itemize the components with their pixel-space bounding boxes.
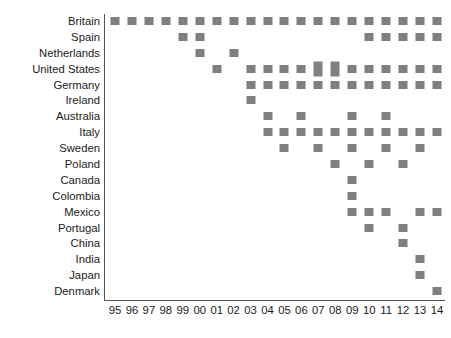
marker: [280, 65, 289, 73]
y-tick-label-portugal: Portugal: [0, 222, 100, 234]
marker: [433, 33, 442, 41]
marker: [416, 144, 425, 152]
marker: [365, 33, 374, 41]
marker: [314, 81, 323, 89]
marker: [433, 65, 442, 73]
marker: [382, 128, 391, 136]
marker: [348, 65, 357, 73]
marker: [433, 17, 442, 25]
marker: [365, 17, 374, 25]
x-tick-label-04: 04: [261, 303, 274, 317]
marker: [297, 17, 306, 25]
y-tick-label-poland: Poland: [0, 158, 100, 170]
marker: [280, 128, 289, 136]
marker: [365, 65, 374, 73]
marker: [314, 128, 323, 136]
x-tick-label-96: 96: [126, 303, 139, 317]
marker: [399, 239, 408, 247]
marker: [382, 144, 391, 152]
x-tick-label-99: 99: [176, 303, 189, 317]
x-tick-label-10: 10: [363, 303, 376, 317]
x-tick-label-06: 06: [295, 303, 308, 317]
marker: [399, 224, 408, 232]
marker: [246, 65, 255, 73]
marker: [331, 160, 340, 168]
x-tick-label-03: 03: [244, 303, 257, 317]
scatter-chart: BritainSpainNetherlandsUnited StatesGerm…: [0, 0, 451, 338]
x-tick-label-09: 09: [346, 303, 359, 317]
y-tick-label-denmark: Denmark: [0, 285, 100, 297]
y-tick-label-germany: Germany: [0, 79, 100, 91]
marker: [331, 128, 340, 136]
marker: [195, 33, 204, 41]
marker: [348, 128, 357, 136]
y-tick-label-britain: Britain: [0, 15, 100, 27]
marker: [161, 17, 170, 25]
marker: [297, 81, 306, 89]
marker: [399, 33, 408, 41]
marker: [348, 144, 357, 152]
marker: [416, 208, 425, 216]
marker: [365, 160, 374, 168]
x-tick-label-08: 08: [329, 303, 342, 317]
y-tick-label-colombia: Colombia: [0, 190, 100, 202]
x-tick-label-11: 11: [380, 303, 392, 317]
marker: [433, 81, 442, 89]
x-tick-label-98: 98: [160, 303, 173, 317]
marker: [212, 65, 221, 73]
marker: [399, 160, 408, 168]
marker: [297, 128, 306, 136]
marker: [399, 65, 408, 73]
marker: [399, 128, 408, 136]
marker: [416, 65, 425, 73]
marker: [263, 65, 272, 73]
marker: [416, 17, 425, 25]
x-tick-label-00: 00: [193, 303, 206, 317]
y-tick-label-mexico: Mexico: [0, 206, 100, 218]
marker: [399, 17, 408, 25]
y-tick-label-canada: Canada: [0, 174, 100, 186]
marker: [178, 33, 187, 41]
marker: [314, 144, 323, 152]
x-tick-label-14: 14: [431, 303, 444, 317]
marker: [348, 81, 357, 89]
marker: [195, 49, 204, 57]
marker: [263, 81, 272, 89]
marker: [348, 176, 357, 184]
marker: [382, 65, 391, 73]
marker: [365, 208, 374, 216]
x-tick-label-02: 02: [227, 303, 240, 317]
marker: [331, 61, 340, 76]
marker: [280, 17, 289, 25]
marker: [433, 208, 442, 216]
marker: [314, 61, 323, 76]
marker: [416, 128, 425, 136]
y-tick-label-netherlands: Netherlands: [0, 47, 100, 59]
marker: [348, 192, 357, 200]
marker: [348, 112, 357, 120]
x-tick-label-95: 95: [109, 303, 122, 317]
marker: [365, 81, 374, 89]
marker: [263, 128, 272, 136]
x-tick-label-01: 01: [210, 303, 223, 317]
marker: [178, 17, 187, 25]
x-axis-tick-labels: 9596979899000102030405060708091011121314: [105, 303, 445, 323]
marker: [229, 49, 238, 57]
marker: [416, 255, 425, 263]
y-tick-label-italy: Italy: [0, 126, 100, 138]
y-tick-label-ireland: Ireland: [0, 94, 100, 106]
x-tick-label-97: 97: [143, 303, 156, 317]
y-tick-label-sweden: Sweden: [0, 142, 100, 154]
marker: [416, 271, 425, 279]
x-axis-line: [104, 300, 445, 301]
marker: [365, 224, 374, 232]
marker: [382, 17, 391, 25]
marker: [280, 144, 289, 152]
x-tick-label-05: 05: [278, 303, 291, 317]
marker: [382, 81, 391, 89]
plot-area: [105, 14, 445, 300]
marker: [382, 33, 391, 41]
y-tick-label-australia: Australia: [0, 110, 100, 122]
marker: [382, 112, 391, 120]
marker: [144, 17, 153, 25]
